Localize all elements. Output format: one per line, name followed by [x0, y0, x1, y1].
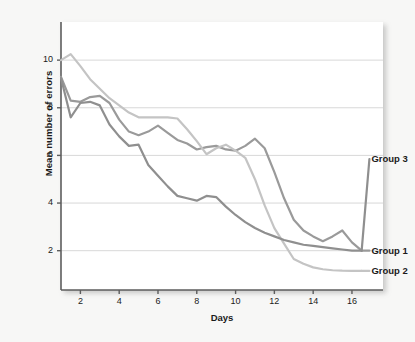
x-tick-label-4: 4: [109, 296, 129, 306]
series-label-group-2: Group 2: [371, 265, 407, 276]
x-tick-label-16: 16: [342, 296, 362, 306]
y-tick-label-4: 4: [31, 197, 53, 207]
y-tick-label-10: 10: [31, 54, 53, 64]
leader-line-group-3: [362, 159, 370, 251]
x-tick-label-6: 6: [148, 296, 168, 306]
data-series-lines: [61, 54, 362, 271]
x-tick-label-12: 12: [264, 296, 284, 306]
x-tick-label-14: 14: [303, 296, 323, 306]
series-line-group-3: [61, 78, 362, 251]
y-tick-label-8: 8: [31, 102, 53, 112]
y-tick-label-6: 6: [31, 149, 53, 159]
series-label-group-3: Group 3: [371, 153, 407, 164]
line-chart-svg: [0, 0, 415, 342]
series-line-group-1: [61, 77, 362, 251]
legend-leader-lines: [362, 159, 370, 271]
y-tick-label-2: 2: [31, 245, 53, 255]
axis-ticks: [57, 60, 352, 294]
x-axis-title: Days: [61, 312, 383, 323]
series-label-group-1: Group 1: [371, 245, 407, 256]
x-tick-label-2: 2: [70, 296, 90, 306]
x-tick-label-10: 10: [226, 296, 246, 306]
axis-lines: [61, 22, 383, 290]
chart-figure: Mean number of errors Days 246810 246810…: [0, 0, 415, 342]
x-tick-label-8: 8: [187, 296, 207, 306]
y-axis-title: Mean number of errors: [43, 54, 54, 194]
gridlines: [61, 60, 383, 251]
